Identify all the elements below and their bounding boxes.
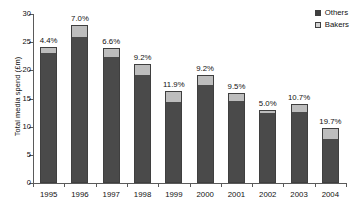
bar-segment-others xyxy=(291,112,308,183)
bar-segment-bakers xyxy=(103,48,120,57)
bar-value-label: 4.4% xyxy=(40,36,58,45)
bar-segment-others xyxy=(103,57,120,183)
bar-segment-others xyxy=(228,101,245,183)
bar-segment-others xyxy=(71,37,88,183)
x-axis-tick-mark xyxy=(96,183,97,187)
bar-group: 5.0% xyxy=(259,14,276,183)
stacked-bar xyxy=(134,64,151,183)
bar-segment-others xyxy=(197,85,214,183)
stacked-bar xyxy=(259,110,276,183)
x-axis-tick-mark xyxy=(190,183,191,187)
y-axis-tick-label: 15 xyxy=(23,94,31,103)
y-axis-tick: 20 xyxy=(33,70,34,71)
stacked-bar xyxy=(197,75,214,183)
legend-item-others: Others xyxy=(315,8,349,17)
stacked-bar xyxy=(40,47,57,183)
bar-group: 19.7% xyxy=(322,14,339,183)
light-square-icon xyxy=(315,22,321,28)
y-axis-tick-label: 25 xyxy=(23,37,31,46)
bar-group: 6.6% xyxy=(103,14,120,183)
y-axis-tick-label: 10 xyxy=(23,122,31,131)
x-axis-tick-label: 2004 xyxy=(322,190,339,199)
y-axis-title: Total media spend (£m) xyxy=(13,17,22,177)
x-axis-tick-label: 2002 xyxy=(259,190,276,199)
bar-segment-others xyxy=(40,53,57,183)
x-axis-tick-mark xyxy=(252,183,253,187)
bar-value-label: 11.9% xyxy=(163,80,185,89)
bar-segment-others xyxy=(165,102,182,183)
stacked-bar xyxy=(103,48,120,183)
legend-label-others: Others xyxy=(325,8,348,17)
x-axis-tick-mark xyxy=(221,183,222,187)
legend-item-bakers: Bakers xyxy=(315,20,349,29)
x-axis-tick-mark xyxy=(127,183,128,187)
bar-segment-bakers xyxy=(228,93,245,101)
y-axis-tick: 10 xyxy=(33,127,34,128)
x-axis-tick-label: 1996 xyxy=(71,190,88,199)
stacked-bar xyxy=(228,93,245,183)
legend-label-bakers: Bakers xyxy=(325,20,349,29)
stacked-bar xyxy=(165,91,182,183)
y-axis-tick-label: 20 xyxy=(23,65,31,74)
media-spend-stacked-bar-chart: Total media spend (£m) 051015202530 4.4%… xyxy=(0,0,355,206)
y-axis-tick-label: 0 xyxy=(27,178,31,187)
bar-group: 9.2% xyxy=(134,14,151,183)
bar-segment-bakers xyxy=(197,75,214,85)
bar-group: 11.9% xyxy=(165,14,182,183)
x-axis-tick-mark xyxy=(33,183,34,187)
x-axis-tick-label: 1999 xyxy=(165,190,182,199)
y-axis-tick: 25 xyxy=(33,42,34,43)
bar-segment-bakers xyxy=(71,25,88,36)
bar-segment-bakers xyxy=(291,104,308,112)
x-axis-tick-label: 2000 xyxy=(196,190,213,199)
bar-value-label: 9.2% xyxy=(134,53,152,62)
bar-group: 9.2% xyxy=(197,14,214,183)
bar-group: 4.4% xyxy=(40,14,57,183)
bar-value-label: 9.5% xyxy=(228,82,246,91)
y-axis-tick: 15 xyxy=(33,99,34,100)
bar-segment-others xyxy=(259,113,276,183)
bar-group: 7.0% xyxy=(71,14,88,183)
x-axis-tick-label: 1998 xyxy=(134,190,151,199)
bar-segment-bakers xyxy=(322,128,339,139)
x-axis-tick-mark xyxy=(64,183,65,187)
y-axis-tick: 30 xyxy=(33,14,34,15)
bar-value-label: 19.7% xyxy=(319,117,341,126)
bar-segment-others xyxy=(322,139,339,184)
x-axis-tick-mark xyxy=(283,183,284,187)
bar-segment-bakers xyxy=(134,64,151,75)
stacked-bar xyxy=(291,104,308,183)
y-axis-tick-label: 5 xyxy=(27,150,31,159)
dark-square-icon xyxy=(315,10,321,16)
stacked-bar xyxy=(322,128,339,183)
y-axis-tick: 5 xyxy=(33,155,34,156)
bar-group: 10.7% xyxy=(291,14,308,183)
x-axis-tick-label: 2003 xyxy=(290,190,307,199)
x-axis-tick-mark xyxy=(158,183,159,187)
bar-value-label: 5.0% xyxy=(259,99,277,108)
x-axis-tick-label: 2001 xyxy=(228,190,245,199)
bar-segment-bakers xyxy=(165,91,182,102)
bar-group: 9.5% xyxy=(228,14,245,183)
stacked-bar xyxy=(71,25,88,183)
bar-value-label: 10.7% xyxy=(288,93,310,102)
x-axis-tick-label: 1997 xyxy=(103,190,120,199)
x-axis-tick-mark xyxy=(315,183,316,187)
y-axis-tick-label: 30 xyxy=(23,9,31,18)
bar-segment-others xyxy=(134,75,151,183)
bar-value-label: 9.2% xyxy=(196,64,214,73)
x-axis-tick-mark xyxy=(346,183,347,187)
x-axis-tick-label: 1995 xyxy=(40,190,57,199)
bar-value-label: 7.0% xyxy=(71,14,89,23)
plot-area: 051015202530 4.4%7.0%6.6%9.2%11.9%9.2%9.… xyxy=(33,14,346,183)
chart-legend: Others Bakers xyxy=(315,8,349,29)
bar-value-label: 6.6% xyxy=(102,37,120,46)
